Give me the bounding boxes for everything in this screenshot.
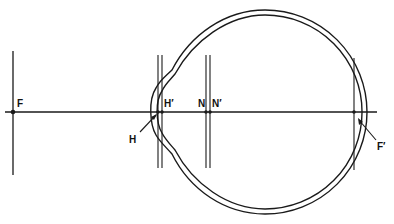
label-n: N: [198, 98, 205, 109]
point-n: [204, 110, 208, 114]
label-f: F: [17, 98, 23, 109]
eye-cardinal-points-diagram: F H H′ N N′ F′: [0, 0, 394, 224]
point-n-prime: [208, 110, 212, 114]
point-h: [156, 110, 160, 114]
label-h: H: [129, 134, 136, 145]
point-f-prime: [352, 110, 356, 114]
point-f: [11, 110, 16, 115]
label-f-prime: F′: [377, 141, 386, 152]
point-h-prime: [160, 110, 164, 114]
label-n-prime: N′: [212, 98, 222, 109]
label-h-prime: H′: [164, 98, 174, 109]
